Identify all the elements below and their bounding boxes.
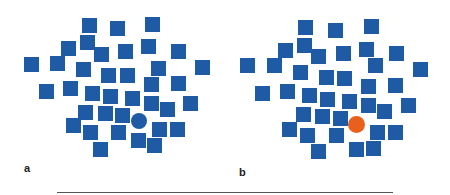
- distractor-square: [401, 98, 416, 113]
- distractor-square: [311, 144, 326, 159]
- distractor-square: [337, 71, 352, 86]
- distractor-square: [364, 19, 379, 34]
- distractor-square: [320, 92, 335, 107]
- distractor-square: [183, 96, 198, 111]
- distractor-square: [83, 125, 98, 140]
- distractor-square: [115, 108, 130, 123]
- distractor-square: [329, 128, 344, 143]
- bottom-rule: [57, 192, 393, 193]
- distractor-square: [125, 91, 140, 106]
- distractor-square: [82, 18, 97, 33]
- target-circle: [348, 116, 365, 133]
- distractor-square: [298, 20, 313, 35]
- distractor-square: [293, 65, 308, 80]
- target-circle: [131, 113, 147, 129]
- distractor-square: [333, 111, 348, 126]
- distractor-square: [361, 98, 376, 113]
- distractor-square: [370, 125, 385, 140]
- distractor-square: [93, 142, 108, 157]
- distractor-square: [85, 86, 100, 101]
- distractor-square: [120, 68, 135, 83]
- distractor-square: [336, 46, 351, 61]
- distractor-square: [98, 106, 113, 121]
- distractor-square: [361, 79, 376, 94]
- distractor-square: [63, 81, 78, 96]
- distractor-square: [24, 57, 39, 72]
- distractor-square: [76, 62, 91, 77]
- panel-a-label: a: [24, 162, 30, 174]
- visual-search-figure: a b: [0, 0, 450, 195]
- distractor-square: [300, 128, 315, 143]
- distractor-square: [171, 44, 186, 59]
- distractor-square: [282, 122, 297, 137]
- distractor-square: [389, 46, 404, 61]
- distractor-square: [94, 47, 109, 62]
- distractor-square: [296, 107, 311, 122]
- distractor-square: [297, 38, 312, 53]
- distractor-square: [240, 58, 255, 73]
- distractor-square: [377, 104, 392, 119]
- distractor-square: [388, 125, 403, 140]
- distractor-square: [141, 39, 156, 54]
- distractor-square: [366, 141, 381, 156]
- distractor-square: [144, 77, 159, 92]
- distractor-square: [319, 70, 334, 85]
- distractor-square: [280, 84, 295, 99]
- distractor-square: [131, 133, 146, 148]
- distractor-square: [267, 58, 282, 73]
- distractor-square: [342, 94, 357, 109]
- distractor-square: [160, 102, 175, 117]
- distractor-square: [147, 138, 162, 153]
- distractor-square: [170, 122, 185, 137]
- distractor-square: [171, 76, 186, 91]
- distractor-square: [315, 109, 330, 124]
- distractor-square: [195, 60, 210, 75]
- distractor-square: [61, 41, 76, 56]
- distractor-square: [388, 78, 403, 93]
- distractor-square: [413, 62, 428, 77]
- distractor-square: [80, 35, 95, 50]
- distractor-square: [368, 58, 383, 73]
- distractor-square: [118, 44, 133, 59]
- distractor-square: [359, 42, 374, 57]
- distractor-square: [110, 21, 125, 36]
- distractor-square: [151, 61, 166, 76]
- distractor-square: [39, 84, 54, 99]
- distractor-square: [311, 49, 326, 64]
- distractor-square: [66, 118, 81, 133]
- distractor-square: [101, 68, 116, 83]
- distractor-square: [255, 86, 270, 101]
- distractor-square: [328, 23, 343, 38]
- distractor-square: [145, 17, 160, 32]
- distractor-square: [302, 88, 317, 103]
- distractor-square: [103, 89, 118, 104]
- distractor-square: [152, 122, 167, 137]
- distractor-square: [50, 56, 65, 71]
- distractor-square: [144, 96, 159, 111]
- panel-b-label: b: [239, 166, 246, 178]
- distractor-square: [278, 43, 293, 58]
- distractor-square: [349, 142, 364, 157]
- distractor-square: [111, 125, 126, 140]
